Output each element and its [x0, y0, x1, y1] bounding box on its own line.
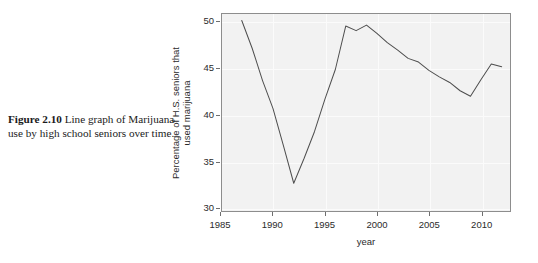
x-tick-label-wrap: 2005 — [409, 219, 449, 230]
y-tick-mark — [216, 115, 220, 116]
y-tick-mark — [216, 162, 220, 163]
x-tick-label-wrap: 2000 — [357, 219, 397, 230]
x-tick-label: 2010 — [462, 219, 502, 230]
plot-area — [221, 13, 511, 212]
y-tick-label-wrap: 35 — [188, 157, 214, 167]
y-tick-label: 30 — [188, 203, 214, 213]
y-tick-label: 45 — [188, 63, 214, 73]
x-tick-mark — [272, 212, 273, 216]
y-tick-label-wrap: 50 — [188, 16, 214, 26]
x-tick-label-wrap: 1995 — [305, 219, 345, 230]
y-tick-label-wrap: 45 — [188, 63, 214, 73]
y-tick-label-wrap: 40 — [188, 110, 214, 120]
x-axis-title: year — [221, 236, 511, 247]
y-tick-label: 35 — [188, 157, 214, 167]
x-tick-mark — [482, 212, 483, 216]
data-series-line — [222, 14, 510, 211]
y-tick-label-wrap: 30 — [188, 203, 214, 213]
y-tick-mark — [216, 21, 220, 22]
y-axis-title-line-1: Percentage of H.S. seniors that — [170, 46, 181, 178]
y-tick-mark — [216, 208, 220, 209]
x-tick-label: 1995 — [305, 219, 345, 230]
x-tick-label: 1985 — [200, 219, 240, 230]
x-tick-mark — [377, 212, 378, 216]
y-tick-label: 50 — [188, 16, 214, 26]
y-tick-mark — [216, 68, 220, 69]
x-tick-mark — [429, 212, 430, 216]
y-tick-label: 40 — [188, 110, 214, 120]
x-tick-label-wrap: 1985 — [200, 219, 240, 230]
x-tick-label: 1990 — [252, 219, 292, 230]
x-tick-mark — [220, 212, 221, 216]
x-tick-label: 2005 — [409, 219, 449, 230]
x-tick-mark — [325, 212, 326, 216]
x-tick-label-wrap: 2010 — [462, 219, 502, 230]
x-tick-label: 2000 — [357, 219, 397, 230]
x-tick-label-wrap: 1990 — [252, 219, 292, 230]
line-chart-figure: Percentage of H.S. seniors that used mar… — [0, 0, 538, 263]
